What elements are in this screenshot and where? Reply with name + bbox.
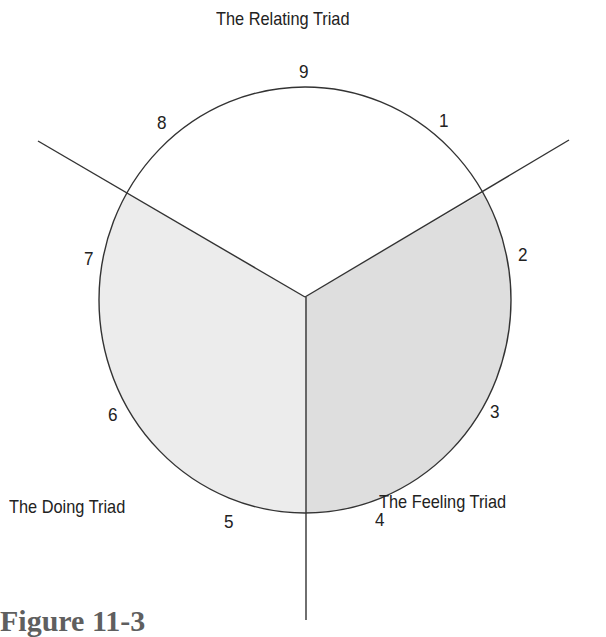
point-2: 2 (518, 245, 528, 264)
point-9: 9 (299, 62, 309, 81)
feeling-triad-region (305, 130, 590, 632)
doing-triad-region (20, 130, 306, 632)
point-5: 5 (224, 512, 234, 531)
doing-triad-label: The Doing Triad (9, 497, 125, 516)
point-3: 3 (490, 402, 500, 421)
point-7: 7 (84, 249, 94, 268)
feeling-triad-label: The Feeling Triad (379, 492, 506, 511)
point-4: 4 (375, 510, 385, 529)
relating-triad-label: The Relating Triad (216, 9, 350, 28)
point-8: 8 (157, 113, 167, 132)
figure-caption: Figure 11-3 (0, 606, 145, 636)
point-6: 6 (108, 405, 118, 424)
point-1: 1 (439, 111, 449, 130)
